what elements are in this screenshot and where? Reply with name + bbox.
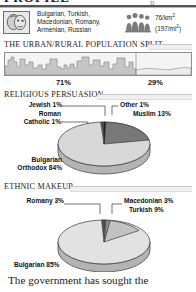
ethnic-heading-rule (70, 186, 192, 192)
religion-heading: RELIGIOUS PERSUASION (4, 90, 107, 99)
label-romany: Romany 3% (14, 197, 64, 205)
label-turkish: Turkish 9% (129, 206, 164, 214)
label-other: Other 1% (120, 101, 149, 109)
label-bulgarian-orthodox: BulgarianOrthodox 84% (4, 156, 62, 172)
languages-text: Bulgarian, Turkish, Macedonian, Romany, … (37, 10, 119, 34)
population-density: 76/km2 (197/mi2) (155, 12, 181, 33)
density-metric: 76/km2 (155, 12, 181, 23)
urban-rural-heading: THE URBAN/RURAL POPULATION SPLIT (4, 40, 166, 49)
urban-rural-heading-rule (148, 44, 192, 50)
title-divider-light (0, 7, 196, 8)
people-crowd-icon (125, 12, 151, 33)
face-head-icon (3, 11, 30, 34)
profile-info-row: Bulgarian, Turkish, Macedonian, Romany, … (3, 11, 193, 37)
profile-panel: PROFILE p Bulgarian, Turkish, Macedonian… (0, 0, 196, 292)
density-imperial: (197/mi2) (155, 23, 181, 34)
label-roman-catholic: RomanCatholic 1% (6, 110, 61, 126)
article-paragraph: The government has sought the (8, 274, 148, 286)
label-macedonian: Macedonian 3% (124, 197, 173, 205)
ethnic-heading: ETHNIC MAKEUP (4, 182, 76, 191)
urban-rural-chart (4, 52, 192, 76)
label-bulgarian: Bulgarian 85% (14, 261, 59, 269)
rural-percent: 29% (148, 78, 163, 87)
label-jewish: Jewish 1% (18, 101, 62, 109)
page-title-text: PROFILE (4, 0, 114, 4)
urban-percent: 71% (56, 78, 71, 87)
label-muslim: Muslim 13% (133, 110, 171, 118)
